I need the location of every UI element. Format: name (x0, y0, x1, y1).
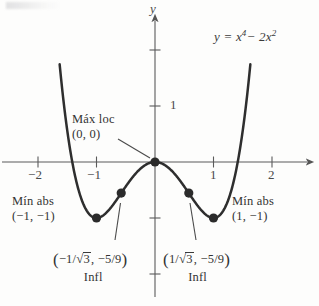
equation-term1: x4 (236, 29, 247, 44)
marker-infl-right (184, 189, 193, 198)
leader-infl-right (190, 203, 196, 240)
x-tick-label-1: 1 (210, 167, 217, 182)
annotation-infl-right-expr: (1/√3, −5/9) (163, 252, 230, 266)
annotation-min-abs-right: Mín abs (1, −1) (232, 194, 274, 224)
annotation-min-abs-left: Mín abs (−1, −1) (12, 194, 55, 224)
equation-minus: − 2 (247, 29, 266, 44)
equation-equals: = (223, 29, 232, 44)
equation-lhs: y (214, 29, 220, 44)
equation-label: y = x4− 2x2 (214, 28, 276, 45)
plot-canvas (0, 0, 319, 306)
annotation-infl-right-caption: Infl (163, 270, 230, 285)
marker-min-abs-left (92, 213, 101, 222)
annotation-max-loc-line1: Máx loc (72, 112, 115, 127)
leader-max-loc (118, 139, 150, 158)
annotation-min-abs-left-line2: (−1, −1) (12, 209, 55, 224)
annotation-infl-right: (1/√3, −5/9) Infl (163, 250, 230, 285)
annotation-max-loc-line2: (0, 0) (72, 127, 115, 142)
annotation-min-abs-right-line2: (1, −1) (232, 209, 274, 224)
x-tick-label--2: −2 (28, 167, 42, 182)
annotation-min-abs-left-line1: Mín abs (12, 194, 55, 209)
x-tick-label-2: 2 (268, 167, 275, 182)
y-tick-label-1: 1 (170, 97, 177, 112)
annotation-max-loc: Máx loc (0, 0) (72, 112, 115, 142)
y-axis-label: y (150, 1, 156, 16)
leader-infl-left (115, 203, 121, 240)
annotation-infl-left-caption: Infl (53, 270, 127, 285)
radical-left: √3 (76, 251, 91, 267)
annotation-infl-left: (−1/√3, −5/9) Infl (53, 250, 127, 285)
marker-max-loc-0-0 (150, 157, 159, 166)
annotation-min-abs-right-line1: Mín abs (232, 194, 274, 209)
annotation-infl-left-expr: (−1/√3, −5/9) (53, 252, 127, 266)
figure-graph-quartic: y −2 −1 1 2 1 y = x4− 2x2 Máx loc (0, 0)… (0, 0, 319, 306)
equation-term2: x2 (266, 29, 277, 44)
marker-min-abs-right (209, 213, 218, 222)
x-tick-label--1: −1 (87, 167, 101, 182)
marker-infl-left (117, 189, 126, 198)
radical-right: √3 (179, 251, 194, 267)
